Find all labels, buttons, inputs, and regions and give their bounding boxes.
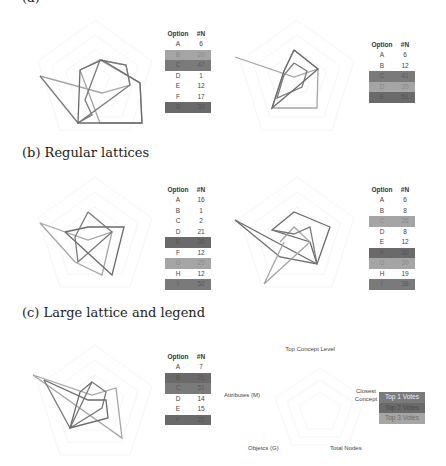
option-header: Option — [165, 29, 191, 39]
table-row: A16 — [165, 195, 211, 206]
table-row: E51 — [369, 92, 415, 103]
count-cell: 20 — [191, 50, 211, 61]
option-cell: D — [165, 71, 191, 82]
option-cell: I — [369, 279, 395, 290]
count-cell: 14 — [191, 394, 211, 405]
count-cell: 51 — [395, 92, 415, 103]
table-header: Option#N — [369, 40, 415, 50]
option-cell: F — [369, 248, 395, 259]
count-cell: 38 — [395, 279, 415, 290]
radar-chart-a2 — [232, 15, 362, 140]
option-cell: D — [369, 82, 395, 93]
option-cell: B — [165, 206, 191, 217]
count-cell: 47 — [191, 60, 211, 71]
table-header: Option#N — [165, 185, 211, 195]
count-cell: 21 — [191, 373, 211, 384]
radar-chart-b2 — [232, 172, 362, 297]
table-header: Option#N — [165, 29, 211, 39]
count-cell: 26 — [395, 216, 415, 227]
options-table-a1: Option#NA6B20C47D1E12F17G39 — [165, 29, 211, 113]
option-cell: C — [369, 71, 395, 82]
table-row: A6 — [369, 195, 415, 206]
option-cell: F — [165, 415, 191, 426]
table-row: E12 — [165, 81, 211, 92]
count-cell: 1 — [191, 71, 211, 82]
count-cell: 1 — [191, 206, 211, 217]
radar-chart-b1 — [30, 172, 160, 297]
count-cell: 30 — [395, 258, 415, 269]
caption-b: (b) Regular lattices — [22, 145, 149, 160]
option-cell: A — [165, 362, 191, 373]
radar-chart-c1 — [30, 340, 160, 465]
table-row: F12 — [165, 248, 211, 259]
table-row: B20 — [165, 50, 211, 61]
legend-item-top2: Top 2 Votes — [379, 403, 425, 414]
count-header: #N — [191, 352, 211, 362]
options-table-b1: Option#NA16B1C2D21E38F12G25H12I52 — [165, 185, 211, 290]
count-cell: 6 — [191, 39, 211, 50]
count-cell: 38 — [191, 237, 211, 248]
option-cell: B — [165, 50, 191, 61]
table-row: A6 — [369, 50, 415, 61]
option-cell: D — [369, 227, 395, 238]
table-row: D35 — [369, 82, 415, 93]
option-cell: B — [165, 373, 191, 384]
table-row: A7 — [165, 362, 211, 373]
table-row: I38 — [369, 279, 415, 290]
count-cell: 7 — [191, 362, 211, 373]
option-cell: E — [165, 237, 191, 248]
table-row: F17 — [165, 92, 211, 103]
count-header: #N — [191, 29, 211, 39]
count-cell: 35 — [395, 82, 415, 93]
table-row: B8 — [369, 206, 415, 217]
option-cell: I — [165, 279, 191, 290]
table-row: C2 — [165, 216, 211, 227]
options-table-b2: Option#NA6B8C26D8E12F30G30H19I38 — [369, 185, 415, 290]
option-cell: H — [165, 269, 191, 280]
table-row: C26 — [369, 216, 415, 227]
axis-label-total-nodes: Total Nodes — [330, 444, 362, 452]
table-row: B12 — [369, 61, 415, 72]
axis-label-closest-concept: Closest Concept — [350, 387, 382, 403]
caption-c: (c) Large lattice and legend — [22, 305, 205, 320]
option-cell: E — [369, 92, 395, 103]
count-cell: 19 — [395, 269, 415, 280]
table-row: F20 — [165, 415, 211, 426]
table-row: E38 — [165, 237, 211, 248]
option-cell: B — [369, 61, 395, 72]
count-cell: 12 — [191, 269, 211, 280]
count-cell: 12 — [395, 61, 415, 72]
axis-label-objects: Objetcs (G) — [248, 444, 279, 452]
option-header: Option — [369, 185, 395, 195]
count-cell: 16 — [191, 195, 211, 206]
option-cell: C — [165, 216, 191, 227]
option-cell: A — [369, 50, 395, 61]
count-cell: 15 — [191, 404, 211, 415]
option-cell: E — [165, 404, 191, 415]
table-header: Option#N — [165, 352, 211, 362]
table-row: B1 — [165, 206, 211, 217]
count-cell: 30 — [395, 248, 415, 259]
option-cell: D — [165, 394, 191, 405]
option-cell: C — [165, 60, 191, 71]
option-cell: A — [165, 39, 191, 50]
option-cell: C — [369, 216, 395, 227]
table-row: A6 — [165, 39, 211, 50]
table-row: H19 — [369, 269, 415, 280]
table-row: E15 — [165, 404, 211, 415]
option-cell: H — [369, 269, 395, 280]
count-cell: 12 — [395, 237, 415, 248]
table-row: D21 — [165, 227, 211, 238]
count-header: #N — [395, 40, 415, 50]
count-cell: 52 — [191, 279, 211, 290]
option-cell: A — [165, 195, 191, 206]
option-cell: A — [369, 195, 395, 206]
count-cell: 20 — [191, 415, 211, 426]
legend-item-top3: Top 3 Votes — [379, 413, 425, 424]
table-row: F30 — [369, 248, 415, 259]
option-cell: E — [165, 81, 191, 92]
count-cell: 8 — [395, 206, 415, 217]
caption-a: (a) — [22, 0, 40, 5]
votes-legend: Top 1 Votes Top 2 Votes Top 3 Votes — [379, 392, 425, 424]
option-cell: C — [165, 383, 191, 394]
